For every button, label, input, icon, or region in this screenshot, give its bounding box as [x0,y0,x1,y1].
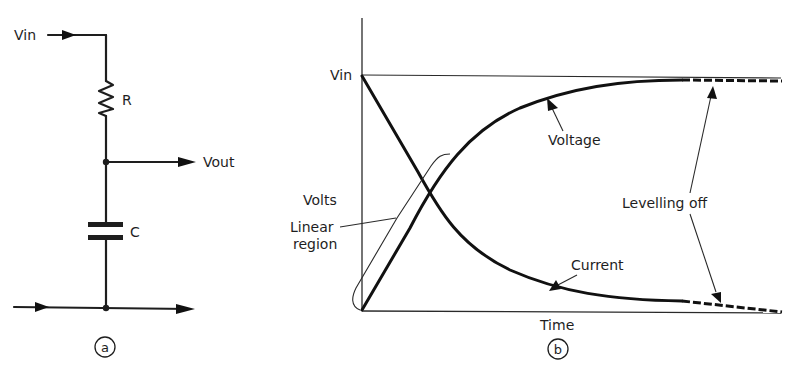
linear-region-leader [340,218,396,227]
rc-circuit-figure: Vin R Vout C a [0,0,799,377]
panel-b-graph: Vin Volts Time Linear region Voltage Cur… [290,18,782,359]
levelling-upper-pointer-line [690,96,711,193]
vin-reference-line [362,75,781,78]
voltage-arrow-icon [547,98,558,111]
current-curve [362,76,682,301]
voltage-annotation: Voltage [548,132,601,148]
input-arrow-icon [62,30,76,40]
voltage-pointer-line [551,106,563,131]
ground-in-arrow-icon [35,302,49,312]
y-axis-label: Volts [303,192,337,208]
x-axis [362,311,781,313]
vout-output-label: Vout [203,154,235,170]
linear-region-bracket [353,154,450,310]
caption-a: a [101,340,109,355]
capacitor-label: C [130,224,140,240]
levelling-upper-arrow-icon [707,86,717,99]
x-axis-label: Time [539,317,574,333]
caption-b: b [554,342,562,357]
current-pointer-line [556,275,577,286]
levelling-lower-pointer-line [690,214,716,292]
current-annotation: Current [571,257,624,273]
ground-out-arrow-icon [176,304,195,314]
resistor-symbol [99,81,113,116]
current-levelling-dashed [682,301,782,312]
capacitor-plate-top [88,222,123,227]
vin-input-label: Vin [14,27,36,43]
output-arrow-icon [178,157,196,167]
linear-region-label-line2: region [293,236,337,252]
linear-region-label-line1: Linear [290,219,334,235]
levelling-off-annotation: Levelling off [622,195,708,211]
y-axis-vin-tick-label: Vin [330,67,352,83]
panel-a-circuit: Vin R Vout C a [14,27,235,357]
voltage-levelling-dashed [682,80,782,81]
resistor-label: R [122,92,132,108]
levelling-lower-arrow-icon [711,292,721,303]
